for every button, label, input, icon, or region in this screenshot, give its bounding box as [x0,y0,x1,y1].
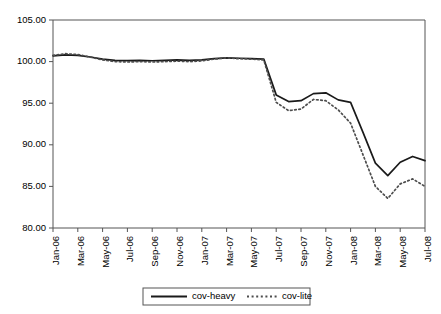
x-tick-label: Sep-07 [298,236,309,267]
chart-legend: cov-heavycov-lite [143,288,312,305]
x-tick-label: Sep-06 [149,236,160,267]
x-tick-label: Jul-07 [273,236,284,262]
legend-label-cov-heavy: cov-heavy [192,290,236,301]
line-chart: 105.00100.0095.0090.0085.0080.00 Jan-06M… [0,0,441,314]
x-tick-label: Jan-07 [199,236,210,265]
legend-label-cov-lite: cov-lite [282,290,312,301]
y-tick-label: 90.00 [22,138,46,149]
series-line-cov-heavy [53,55,425,176]
x-tick-label: Mar-08 [372,236,383,266]
y-tick-label: 100.00 [17,55,46,66]
x-tick-label: Jul-08 [422,236,433,262]
x-tick-label: Jan-06 [50,236,61,265]
y-tick-label: 95.00 [22,97,46,108]
x-tick-label: Mar-06 [75,236,86,266]
series-line-cov-lite [53,54,425,199]
x-tick-label: Jan-08 [348,236,359,265]
x-tick-label: May-07 [248,236,259,268]
x-axis-labels: Jan-06Mar-06May-06Jul-06Sep-06Nov-06Jan-… [50,236,433,268]
x-tick-label: Nov-06 [174,236,185,267]
axis-lines [49,20,425,232]
y-tick-label: 80.00 [22,222,46,233]
y-tick-label: 85.00 [22,180,46,191]
y-tick-label: 105.00 [17,14,46,25]
chart-container: 105.00100.0095.0090.0085.0080.00 Jan-06M… [0,0,441,314]
x-tick-label: Jul-06 [124,236,135,262]
x-tick-label: May-08 [397,236,408,268]
x-tick-label: Nov-07 [323,236,334,267]
x-tick-label: Mar-07 [224,236,235,266]
x-tick-label: May-06 [100,236,111,268]
plot-series [53,54,425,199]
y-axis-labels: 105.00100.0095.0090.0085.0080.00 [17,14,46,233]
